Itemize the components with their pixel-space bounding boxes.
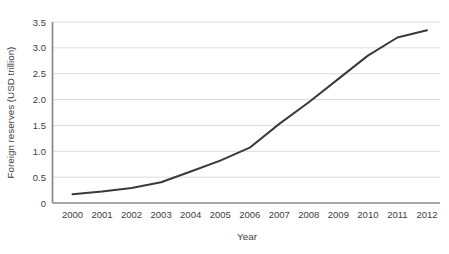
x-axis-tick-labels: 2000200120022003200420052006200720082009… — [62, 209, 438, 220]
x-tick-label: 2009 — [328, 209, 349, 220]
x-tick-label: 2008 — [298, 209, 319, 220]
y-tick-label: 1.5 — [33, 120, 46, 131]
x-tick-label: 2006 — [239, 209, 260, 220]
x-tick-label: 2011 — [387, 209, 407, 220]
x-tick-label: 2010 — [357, 209, 378, 220]
y-tick-label: 0.5 — [33, 172, 46, 183]
x-tick-label: 2003 — [151, 209, 172, 220]
x-tick-label: 2005 — [210, 209, 231, 220]
x-tick-label: 2012 — [416, 209, 437, 220]
x-tick-label: 2002 — [121, 209, 142, 220]
line-chart: 00.51.01.52.02.53.03.5 20002001200220032… — [0, 0, 449, 254]
y-axis-tick-labels: 00.51.01.52.02.53.03.5 — [33, 17, 46, 209]
axes — [53, 22, 441, 203]
chart-svg: 00.51.01.52.02.53.03.5 20002001200220032… — [0, 0, 449, 254]
y-axis-title: Foreign reserves (USD trillion) — [5, 47, 16, 179]
y-tick-label: 2.5 — [33, 68, 46, 79]
y-tick-label: 3.0 — [33, 42, 46, 53]
y-tick-label: 2.0 — [33, 94, 46, 105]
x-tick-label: 2001 — [91, 209, 112, 220]
y-tick-label: 0 — [41, 198, 46, 209]
y-tick-label: 3.5 — [33, 17, 46, 28]
y-tick-label: 1.0 — [33, 146, 46, 157]
x-tick-label: 2004 — [180, 209, 201, 220]
x-tick-label: 2000 — [62, 209, 83, 220]
x-axis-title: Year — [237, 231, 258, 242]
foreign-reserves-line-series — [73, 30, 428, 194]
x-tick-label: 2007 — [269, 209, 290, 220]
gridlines — [53, 22, 441, 177]
